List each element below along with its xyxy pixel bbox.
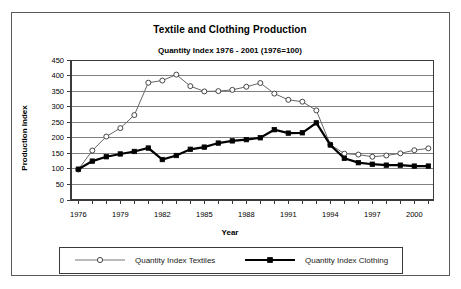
y-axis-title: Production Index [20, 105, 29, 171]
legend-label-clothing: Quantity Index Clothing [305, 256, 388, 265]
data-point [146, 80, 151, 85]
x-axis-ticks: 197619791982198519881991199419972000 [70, 200, 428, 219]
x-tick-label: 1979 [112, 210, 129, 219]
y-tick-label: 400 [51, 71, 64, 80]
data-point [300, 131, 304, 135]
data-point [174, 72, 179, 77]
x-tick-label: 1976 [70, 210, 87, 219]
x-tick-label: 1991 [280, 210, 297, 219]
data-point [216, 141, 220, 145]
data-point [132, 149, 136, 153]
y-tick-label: 100 [51, 164, 64, 173]
data-point [258, 81, 263, 86]
data-point [76, 167, 80, 171]
x-tick-label: 1988 [238, 210, 255, 219]
legend-label-textiles: Quantity Index Textiles [135, 256, 215, 265]
data-point [384, 153, 389, 158]
textile-clothing-production-chart: Textile and Clothing Production Quantity… [12, 13, 449, 275]
data-point [230, 139, 234, 143]
x-tick-label: 1997 [364, 210, 381, 219]
data-point [160, 157, 164, 161]
data-point [286, 97, 291, 102]
data-point [174, 153, 178, 157]
data-point [272, 127, 276, 131]
data-point [356, 160, 360, 164]
data-point [202, 89, 207, 94]
plot-frame [71, 60, 433, 200]
y-tick-label: 200 [51, 133, 64, 142]
data-point [300, 99, 305, 104]
data-point [328, 143, 332, 147]
chart-figure: Textile and Clothing Production Quantity… [11, 12, 450, 276]
data-point [244, 137, 248, 141]
x-tick-label: 1982 [154, 210, 171, 219]
data-point [272, 91, 277, 96]
data-point [412, 148, 417, 153]
y-tick-label: 450 [51, 56, 64, 65]
data-point [426, 146, 431, 151]
data-point [90, 148, 95, 153]
data-point [258, 136, 262, 140]
legend-marker-textiles [97, 257, 102, 262]
data-point [104, 134, 109, 139]
data-point [132, 113, 137, 118]
gridlines [71, 60, 433, 200]
y-tick-label: 350 [51, 87, 64, 96]
chart-subtitle: Quantity Index 1976 - 2001 (1976=100) [158, 46, 302, 55]
data-point [90, 159, 94, 163]
y-tick-label: 150 [51, 149, 64, 158]
data-point [370, 154, 375, 159]
data-point [160, 78, 165, 83]
data-point [356, 152, 361, 157]
x-tick-label: 2000 [406, 210, 423, 219]
x-tick-label: 1994 [322, 210, 339, 219]
data-point [426, 164, 430, 168]
data-point [230, 87, 235, 92]
data-point [314, 108, 319, 113]
chart-legend: Quantity Index Textiles Quantity Index C… [59, 247, 402, 273]
data-point [384, 163, 388, 167]
y-tick-label: 0 [60, 196, 64, 205]
x-axis-title: Year [222, 228, 239, 237]
y-tick-label: 250 [51, 118, 64, 127]
data-point [118, 152, 122, 156]
x-tick-label: 1985 [196, 210, 213, 219]
series-clothing [76, 121, 430, 172]
y-tick-label: 300 [51, 102, 64, 111]
data-point [314, 121, 318, 125]
y-axis-ticks: 050100150200250300350400450 [51, 56, 71, 205]
data-point [216, 89, 221, 94]
data-point [188, 147, 192, 151]
chart-title: Textile and Clothing Production [153, 24, 306, 35]
data-point [286, 131, 290, 135]
data-point [244, 84, 249, 89]
data-point [118, 126, 123, 131]
legend-marker-clothing [268, 258, 273, 263]
data-point [104, 155, 108, 159]
data-point [412, 164, 416, 168]
y-tick-label: 50 [56, 180, 64, 189]
data-point [188, 84, 193, 89]
data-point [342, 156, 346, 160]
data-point [202, 145, 206, 149]
data-point [146, 146, 150, 150]
data-point [398, 163, 402, 167]
data-point [370, 162, 374, 166]
data-point [398, 151, 403, 156]
